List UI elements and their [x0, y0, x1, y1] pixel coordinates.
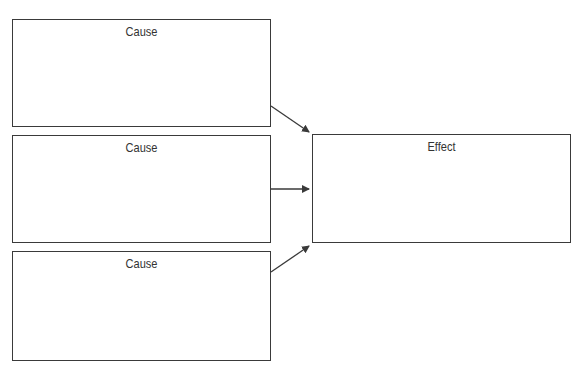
- arrow-1: [271, 106, 309, 132]
- arrows: [0, 0, 579, 371]
- arrow-3: [271, 246, 309, 272]
